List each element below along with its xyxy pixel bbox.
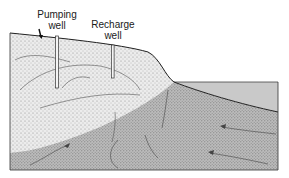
pumping-well-label-line1: Pumping	[36, 9, 78, 20]
recharge-well-label-line2: well	[90, 30, 136, 41]
recharge-well-label-line1: Recharge	[90, 19, 136, 30]
pumping-well-label-line2: well	[36, 20, 78, 31]
aquifer-diagram: Pumping well Recharge well	[0, 0, 289, 178]
recharge-well-label: Recharge well	[90, 19, 136, 41]
recharge-well	[112, 45, 115, 78]
pumping-well-label: Pumping well	[36, 9, 78, 31]
pumping-well	[56, 36, 59, 88]
